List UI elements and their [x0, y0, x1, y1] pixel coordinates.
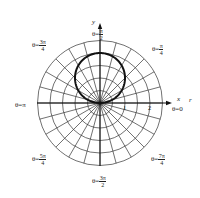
grid-radial-line [100, 103, 116, 163]
grid-radial-line [69, 103, 100, 157]
pole-dot [98, 101, 101, 104]
y-axis-label: y [92, 18, 95, 26]
angle-label-3pi-over-2: θ=3π2 [92, 175, 106, 188]
grid-radial-line [40, 103, 100, 119]
grid-radial-line [100, 49, 131, 103]
grid-radial-line [46, 103, 100, 134]
grid-radial-line [100, 103, 131, 157]
angle-label-0: θ=0 [172, 106, 183, 113]
r-axis-label: r [189, 96, 192, 104]
grid-radial-line [100, 43, 116, 103]
grid-radial-line [56, 103, 100, 147]
angle-label-pi-over-2: θ=π2 [92, 28, 103, 41]
x-axis-label: x [177, 95, 180, 103]
r-tick-2: 2 [148, 104, 151, 111]
angle-label-pi-over-4: θ=π4 [152, 43, 163, 56]
grid-radial-line [100, 103, 160, 119]
r-tick-1: 1 [123, 104, 126, 111]
grid-radial-line [69, 49, 100, 103]
grid-radial-line [46, 72, 100, 103]
angle-label-3pi-over-4: θ=3π4 [32, 39, 46, 52]
angle-label-7pi-over-4: θ=7π4 [151, 153, 165, 166]
grid-radial-line [100, 72, 154, 103]
angle-label-pi: θ=π [15, 102, 26, 109]
grid-radial-line [84, 103, 100, 163]
grid-radial-line [100, 103, 154, 134]
grid-radial-line [84, 43, 100, 103]
angle-label-5pi-over-4: θ=5π4 [32, 153, 46, 166]
